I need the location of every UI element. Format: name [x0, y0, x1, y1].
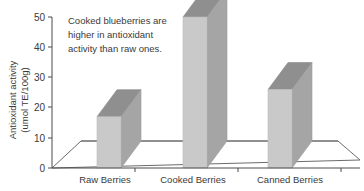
y-axis-title: Antioxidant activity (umol TE/100g): [7, 60, 30, 139]
x-axis: [52, 168, 360, 172]
y-axis-title-line2: (umol TE/100g): [19, 67, 30, 132]
chart-annotation: Cooked blueberries are higher in antioxi…: [68, 15, 167, 54]
x-axis-category-labels: Raw Berries Cooked Berries Canned Berrie…: [79, 174, 323, 185]
y-tick-label-50: 50: [34, 12, 46, 23]
annotation-line-2: higher in antioxidant: [68, 29, 153, 40]
y-tick-label-10: 10: [34, 133, 46, 144]
bar-cooked-berries[interactable]: [183, 0, 227, 168]
y-tick-label-20: 20: [34, 102, 46, 113]
category-label-raw-berries: Raw Berries: [79, 174, 131, 185]
y-tick-label-40: 40: [34, 42, 46, 53]
annotation-line-1: Cooked blueberries are: [68, 15, 167, 26]
bar-front-face: [268, 90, 292, 169]
bar-chart-figure: 50 40 30 20 10 0 Antioxidant activity (u…: [0, 0, 364, 191]
category-label-canned-berries: Canned Berries: [257, 174, 323, 185]
bar-side-face: [207, 0, 227, 168]
chart-canvas: 50 40 30 20 10 0 Antioxidant activity (u…: [0, 0, 364, 191]
y-axis: 50 40 30 20 10 0: [34, 12, 52, 174]
y-axis-title-line1: Antioxidant activity: [7, 60, 18, 139]
y-tick-label-0: 0: [39, 163, 45, 174]
bar-front-face: [97, 117, 121, 168]
y-tick-label-30: 30: [34, 72, 46, 83]
annotation-line-3: activity than raw ones.: [68, 43, 162, 54]
category-label-cooked-berries: Cooked Berries: [160, 174, 226, 185]
bar-front-face: [183, 17, 207, 168]
